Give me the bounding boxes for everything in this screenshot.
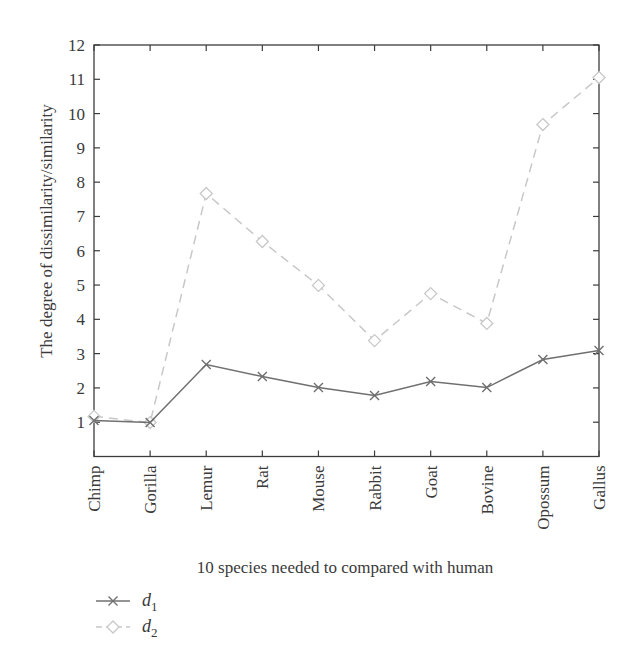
- y-axis-title: The degree of dissimilarity/similarity: [37, 104, 56, 358]
- x-tick-label: Mouse: [309, 466, 328, 512]
- y-tick-label: 4: [77, 310, 86, 329]
- x-tick-label: Goat: [422, 465, 441, 498]
- svg-text:d2: d2: [142, 616, 158, 640]
- legend: d1d2: [96, 590, 158, 640]
- y-tick-label: 10: [68, 105, 85, 124]
- x-tick-label: Lemur: [197, 465, 216, 511]
- line-chart: 123456789101112 ChimpGorillaLemurRatMous…: [0, 0, 636, 672]
- y-tick-label: 1: [77, 413, 86, 432]
- y-tick-label: 8: [77, 173, 86, 192]
- plot-area: [94, 45, 599, 457]
- series-layer: [88, 72, 605, 429]
- legend-item-d2: d2: [96, 616, 158, 640]
- x-tick-label: Chimp: [85, 466, 104, 512]
- x-tick-label: Gallus: [590, 466, 609, 510]
- x-tick-label: Rabbit: [366, 465, 385, 511]
- svg-text:d1: d1: [142, 590, 158, 614]
- y-tick-label: 12: [68, 36, 85, 55]
- x-tick-label: Opossum: [534, 466, 553, 530]
- y-tick-label: 11: [69, 70, 85, 89]
- x-tick-label: Rat: [253, 465, 272, 489]
- x-tick-label: Gorilla: [141, 465, 160, 514]
- y-tick-label: 3: [77, 345, 86, 364]
- y-tick-label: 6: [77, 242, 86, 261]
- x-axis-title: 10 species needed to compared with human: [197, 558, 494, 577]
- y-tick-label: 2: [77, 379, 86, 398]
- x-tick-label: Bovine: [478, 466, 497, 515]
- y-tick-label: 9: [77, 139, 86, 158]
- legend-item-d1: d1: [96, 590, 158, 614]
- y-axis: 123456789101112: [68, 36, 599, 432]
- plot-frame: [94, 45, 599, 457]
- y-tick-label: 5: [77, 276, 86, 295]
- y-tick-label: 7: [77, 207, 86, 226]
- series-d2: [88, 72, 605, 429]
